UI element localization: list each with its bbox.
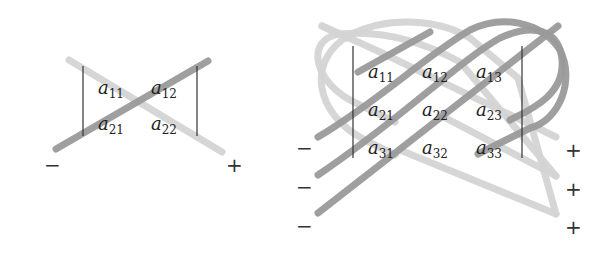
minus-sign: − [296,175,313,199]
minus-sign: − [296,214,313,238]
matrix-entry: a11 [98,77,124,101]
plus-sign: + [565,177,582,201]
matrix-entry: a31 [368,137,394,161]
matrix-entry: a11 [368,61,394,85]
negative-diagonal-line [56,61,208,149]
plus-sign: + [226,153,243,177]
minus-sign: − [44,153,61,177]
diagram-2x2: a11 a12 a21 a22 − + [44,60,243,177]
matrix-entry: a32 [422,137,448,161]
positive-diagonal-line [400,150,556,214]
positive-diagonal-line [69,60,222,152]
matrix-entry: a12 [422,61,448,85]
minus-sign: − [296,136,313,160]
matrix-entry: a21 [368,99,394,123]
diagram-3x3: a11 a12 a13 a21 a22 a23 a31 a32 a33 − − … [296,22,582,239]
plus-sign: + [565,215,582,239]
matrix-entry: a22 [422,99,448,123]
plus-sign: + [565,138,582,162]
sarrus-diagram-canvas: a11 a12 a21 a22 − + a11 a12 a13 a21 a22 … [0,0,613,256]
